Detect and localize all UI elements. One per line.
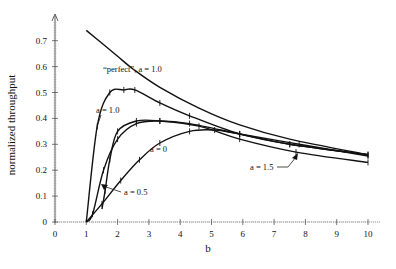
annotation-perfect: “perfect”, a = 1.0 bbox=[103, 64, 162, 74]
series-a-0 bbox=[86, 127, 368, 222]
x-tick-label: 3 bbox=[147, 229, 152, 239]
x-tick-label: 0 bbox=[53, 229, 58, 239]
y-tick-label: 0.1 bbox=[36, 191, 47, 201]
y-axis-title: normalized throughput bbox=[5, 75, 17, 176]
y-tick-label: 0.4 bbox=[36, 113, 48, 123]
arrowhead-a-1-5 bbox=[292, 153, 298, 160]
x-tick-label: 10 bbox=[364, 229, 374, 239]
annotation-a-0-5: a = 0.5 bbox=[124, 187, 147, 197]
pointer-a-1-5 bbox=[277, 157, 296, 167]
x-tick-label: 9 bbox=[334, 229, 339, 239]
x-axis-title: b bbox=[205, 242, 211, 254]
series-a-0-5 bbox=[86, 118, 368, 222]
y-tick-label: 0.6 bbox=[36, 62, 48, 72]
pointer-a-0-5 bbox=[106, 187, 121, 192]
throughput-chart: 00.10.20.30.40.50.60.7012345678910 “perf… bbox=[0, 0, 396, 269]
y-tick-label: 0 bbox=[43, 217, 48, 227]
annotation-a-1-5: a = 1.5 bbox=[250, 162, 273, 172]
y-tick-label: 0.7 bbox=[36, 36, 48, 46]
y-tick-label: 0.5 bbox=[36, 88, 48, 98]
y-tick-label: 0.3 bbox=[36, 139, 48, 149]
x-tick-label: 7 bbox=[272, 229, 277, 239]
x-tick-label: 4 bbox=[178, 229, 183, 239]
x-tick-label: 2 bbox=[115, 229, 120, 239]
x-tick-label: 6 bbox=[241, 229, 246, 239]
annotation-a-0: a = 0 bbox=[150, 144, 167, 154]
annotation-a-1-0: a = 1.0 bbox=[96, 105, 119, 115]
y-tick-label: 0.2 bbox=[36, 165, 47, 175]
x-tick-label: 5 bbox=[209, 229, 214, 239]
x-tick-label: 1 bbox=[84, 229, 89, 239]
series--perfect-a-1-0 bbox=[86, 30, 368, 154]
series-a-1-0 bbox=[86, 87, 368, 222]
x-tick-label: 8 bbox=[303, 229, 308, 239]
